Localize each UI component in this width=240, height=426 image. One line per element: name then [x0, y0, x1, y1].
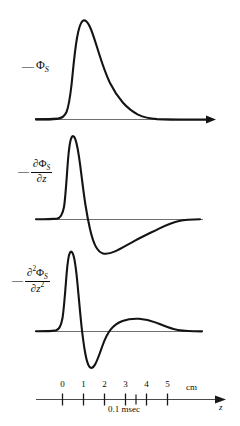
panel2-numerator: ∂ΦS: [31, 158, 52, 172]
panel3-numerator: ∂2ΦS: [25, 266, 50, 281]
z-tick-label-0: 0: [56, 379, 70, 389]
z-axis-unit-label: cm: [186, 382, 197, 392]
panel-second-derivative: [36, 252, 203, 368]
time-scale-annotation: 0.1 msec: [108, 404, 140, 414]
panel-label-first-derivative: — ∂ΦS ∂z: [18, 158, 52, 185]
panel-label-potential: —ΦS: [22, 58, 49, 74]
panel3-label-fraction: ∂2ΦS ∂z2: [25, 266, 50, 294]
z-tick-label-4: 4: [140, 379, 154, 389]
panel-potential: [36, 20, 216, 123]
panel1-left-tail: [36, 119, 57, 120]
z-tick-label-1: 1: [77, 379, 91, 389]
panel2-curve: [36, 136, 200, 254]
panel1-curve: [36, 20, 210, 119]
panel3-label-dash: —: [12, 274, 23, 286]
z-tick-label-5: 5: [161, 379, 175, 389]
panel2-label-dash: —: [18, 165, 29, 177]
panel1-label-dash: —: [22, 59, 34, 74]
panel3-denominator: ∂z2: [25, 281, 50, 294]
panel2-label-fraction: ∂ΦS ∂z: [31, 158, 52, 185]
z-tick-label-3: 3: [119, 379, 133, 389]
panel1-label-symbol: ΦS: [36, 58, 49, 72]
z-tick-label-2: 2: [98, 379, 112, 389]
z-axis-variable-label: z: [219, 402, 223, 412]
panel2-denominator: ∂z: [31, 172, 52, 185]
panel-label-second-derivative: — ∂2ΦS ∂z2: [12, 266, 50, 294]
panel-first-derivative: [36, 136, 203, 254]
panel3-curve: [36, 252, 202, 368]
